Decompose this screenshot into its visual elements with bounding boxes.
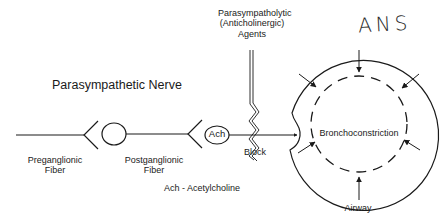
agents-label-line2: (Anticholinergic)	[218, 18, 286, 28]
block-label: Block	[240, 147, 270, 157]
airway-inner-lumen	[311, 76, 407, 172]
preganglionic-label-line1: Preganglionic	[24, 155, 86, 165]
ans-handwritten-annotation: ANS	[357, 11, 412, 38]
airway-label: Airway	[338, 203, 378, 213]
constriction-arrows	[298, 50, 420, 200]
preganglionic-label: Preganglionic Fiber	[24, 155, 86, 176]
agents-label-line1: Parasympatholytic	[218, 8, 286, 18]
postganglionic-fiber	[126, 120, 202, 148]
ganglion-node	[102, 123, 126, 145]
agents-label: Parasympatholytic (Anticholinergic) Agen…	[218, 8, 286, 39]
agents-label-line3: Agents	[218, 29, 286, 39]
ach-label: Ach	[206, 129, 228, 140]
diagram-canvas: Parasympathetic Nerve Parasympatholytic …	[0, 0, 447, 217]
postganglionic-label-line1: Postganglionic	[120, 155, 188, 165]
postganglionic-label-line2: Fiber	[120, 165, 188, 175]
bronchoconstriction-label: Bronchoconstriction	[318, 128, 400, 138]
nerve-title: Parasympathetic Nerve	[52, 78, 182, 92]
preganglionic-label-line2: Fiber	[24, 165, 86, 175]
postganglionic-label: Postganglionic Fiber	[120, 155, 188, 176]
preganglionic-fiber	[16, 121, 98, 149]
block-barrier	[249, 50, 259, 161]
legend-text: Ach - Acetylcholine	[164, 183, 240, 193]
